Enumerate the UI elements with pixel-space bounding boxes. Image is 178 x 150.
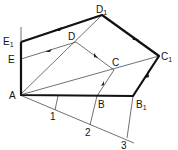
label-3: 3 xyxy=(121,140,127,150)
division-line xyxy=(20,95,134,143)
ray-A-D1 xyxy=(20,15,102,95)
construction-diagram: E1 E D D1 C C1 A B B1 1 2 3 xyxy=(0,0,178,150)
construction-lines xyxy=(20,15,159,143)
label-A: A xyxy=(9,90,16,101)
label-C1: C1 xyxy=(161,51,172,63)
label-1: 1 xyxy=(50,111,56,122)
label-E: E xyxy=(8,54,15,65)
label-2: 2 xyxy=(85,127,91,138)
tick-2-to-B xyxy=(90,96,97,125)
label-C: C xyxy=(112,57,119,68)
tick-1 xyxy=(55,96,58,110)
tick-3-to-B1 xyxy=(127,96,133,138)
label-E1: E1 xyxy=(3,36,14,48)
arrow-icon xyxy=(94,53,98,58)
label-D1: D1 xyxy=(96,4,107,16)
edge-C-B xyxy=(97,70,114,96)
arrow-icon xyxy=(101,81,104,86)
label-B1: B1 xyxy=(136,99,147,111)
original-polygon xyxy=(21,42,114,96)
label-B: B xyxy=(98,99,105,110)
label-D: D xyxy=(68,31,75,42)
